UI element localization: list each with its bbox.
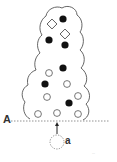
line-label: A xyxy=(3,114,11,125)
filled-circle xyxy=(41,80,48,87)
filled-circle xyxy=(45,36,52,43)
filled-circle xyxy=(65,99,72,106)
open-circle xyxy=(75,111,82,118)
open-circle xyxy=(75,93,82,100)
open-circle xyxy=(46,70,53,77)
filled-circle xyxy=(59,64,66,71)
particle-dashed-circle xyxy=(50,135,64,149)
watermark-text: ··· xyxy=(92,153,95,156)
diamond-marker xyxy=(47,19,57,29)
cell-cluster-diagram xyxy=(0,0,117,162)
open-circle xyxy=(35,111,42,118)
filled-circle xyxy=(59,15,66,22)
open-circle xyxy=(64,81,71,88)
open-circle xyxy=(44,94,51,101)
arrow-head-icon xyxy=(55,122,59,126)
diamond-marker xyxy=(60,29,70,39)
open-circle xyxy=(54,110,61,117)
particle-label: a xyxy=(65,136,71,146)
filled-circle xyxy=(61,41,68,48)
